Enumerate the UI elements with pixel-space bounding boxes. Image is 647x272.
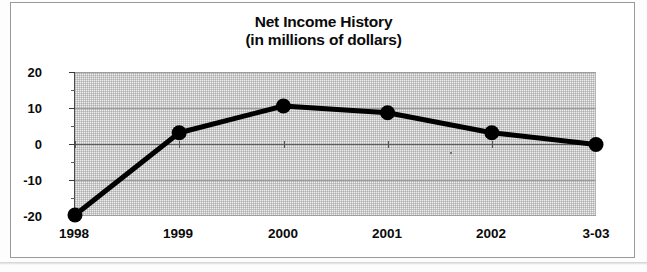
x-axis-label-1998: 1998	[34, 227, 114, 241]
y-axis-label-10: 10	[0, 102, 42, 115]
y-axis-label-neg10: -10	[0, 174, 42, 187]
series-line	[75, 106, 596, 215]
chart-title-subtitle: (in millions of dollars)	[11, 31, 636, 49]
chart-page-frame: Net Income History (in millions of dolla…	[10, 2, 635, 258]
x-axis-label-3-03: 3-03	[556, 227, 636, 241]
chart-title-main: Net Income History	[255, 13, 393, 30]
x-axis-label-2001: 2001	[347, 227, 427, 241]
scan-edge-shadow	[0, 262, 647, 265]
y-axis-label-20: 20	[0, 66, 42, 79]
x-axis-label-2002: 2002	[451, 227, 531, 241]
y-axis-label-0: 0	[0, 138, 42, 151]
chart-title-block: Net Income History (in millions of dolla…	[11, 13, 636, 49]
data-point-1998	[68, 208, 83, 223]
data-point-1999	[172, 125, 187, 140]
plot-area	[74, 72, 596, 216]
data-point-2002	[484, 125, 499, 140]
x-axis-label-1999: 1999	[138, 227, 218, 241]
data-point-2001	[380, 105, 395, 120]
net-income-series	[75, 72, 597, 216]
y-axis-label-neg20: -20	[0, 210, 42, 223]
x-axis-label-2000: 2000	[243, 227, 323, 241]
data-point-2000	[276, 98, 291, 113]
data-point-3-03	[589, 137, 604, 152]
